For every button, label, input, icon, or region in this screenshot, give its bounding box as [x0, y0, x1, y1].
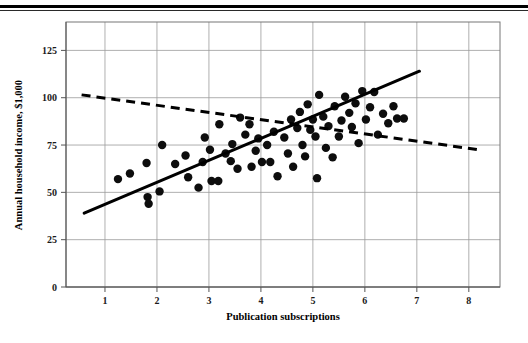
- scatter-point: [214, 177, 222, 185]
- plot-border: [66, 22, 500, 287]
- scatter-point: [284, 149, 292, 157]
- scatter-point: [258, 158, 266, 166]
- gridlines: [66, 22, 500, 287]
- x-axis-ticks: 12345678: [102, 287, 471, 306]
- scatter-point: [194, 183, 202, 191]
- x-tick-label: 6: [362, 295, 367, 306]
- scatter-point: [366, 103, 374, 111]
- scatter-point: [389, 102, 397, 110]
- scatter-point: [126, 169, 134, 177]
- scatter-point: [247, 163, 255, 171]
- scatter-point: [280, 133, 288, 141]
- scatter-point: [341, 93, 349, 101]
- scatter-point: [144, 200, 152, 208]
- page-top-rule-thin: [0, 10, 528, 11]
- scatter-point: [171, 160, 179, 168]
- scatter-point: [348, 123, 356, 131]
- scatter-point: [228, 140, 236, 148]
- y-tick-label: 100: [42, 92, 57, 103]
- x-tick-label: 4: [258, 295, 263, 306]
- scatter-point: [289, 163, 297, 171]
- plot-frame: [66, 22, 500, 287]
- scatter-point: [273, 172, 281, 180]
- x-axis-title: Publication subscriptions: [226, 311, 340, 322]
- scatter-point: [263, 141, 271, 149]
- x-tick-label: 1: [102, 295, 107, 306]
- scatter-point: [155, 187, 163, 195]
- scatter-point: [335, 132, 343, 140]
- scatter-point: [201, 133, 209, 141]
- trend-lines: [82, 71, 480, 213]
- x-tick-label: 8: [466, 295, 471, 306]
- scatter-point: [354, 139, 362, 147]
- scatter-point: [241, 130, 249, 138]
- y-tick-label: 75: [47, 140, 57, 151]
- scatter-point: [301, 152, 309, 160]
- scatter-point: [311, 132, 319, 140]
- page-top-rule: [0, 5, 528, 8]
- y-axis-ticks: 0255075100125: [42, 45, 66, 293]
- scatter-point: [362, 115, 370, 123]
- scatter-point: [400, 114, 408, 122]
- scatter-point: [298, 141, 306, 149]
- scatter-point: [379, 110, 387, 118]
- y-axis-title: Annual household income, $1,000: [13, 80, 24, 230]
- scatter-point: [142, 159, 150, 167]
- x-tick-label: 7: [414, 295, 419, 306]
- chart-canvas: 0255075100125 12345678 Annual household …: [0, 0, 528, 343]
- scatter-point: [206, 146, 214, 154]
- y-tick-label: 50: [47, 187, 57, 198]
- scatter-point: [227, 157, 235, 165]
- scatter-point: [184, 173, 192, 181]
- scatter-point: [296, 108, 304, 116]
- y-tick-label: 0: [52, 282, 57, 293]
- x-tick-label: 5: [310, 295, 315, 306]
- scatter-point: [233, 164, 241, 172]
- y-tick-label: 25: [47, 234, 57, 245]
- scatter-point: [384, 119, 392, 127]
- scatter-point: [328, 153, 336, 161]
- scatter-point: [337, 116, 345, 124]
- scatter-point: [158, 141, 166, 149]
- scatter-plot-figure: 0255075100125 12345678 Annual household …: [0, 0, 528, 343]
- scatter-point: [303, 100, 311, 108]
- scatter-point: [181, 151, 189, 159]
- dashed-regression-line: [82, 95, 480, 150]
- solid-regression-line: [84, 71, 419, 213]
- scatter-point: [252, 147, 260, 155]
- scatter-point: [345, 109, 353, 117]
- y-tick-label: 125: [42, 45, 57, 56]
- x-tick-label: 2: [154, 295, 159, 306]
- scatter-point: [266, 158, 274, 166]
- scatter-point: [215, 120, 223, 128]
- scatter-point: [313, 174, 321, 182]
- x-tick-label: 3: [206, 295, 211, 306]
- scatter-point: [315, 91, 323, 99]
- scatter-point: [322, 144, 330, 152]
- scatter-point: [114, 175, 122, 183]
- scatter-point: [245, 120, 253, 128]
